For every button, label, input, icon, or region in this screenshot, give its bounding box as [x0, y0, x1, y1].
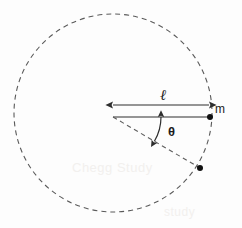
angle-label: θ: [168, 125, 175, 138]
mass-label: m: [215, 103, 225, 115]
angle-arc-arrow: [154, 117, 161, 141]
displaced-radius-line: [113, 117, 200, 168]
length-label: ℓ: [160, 88, 166, 103]
physics-diagram: [0, 0, 242, 228]
mass-point: [207, 114, 213, 120]
figure-canvas: Chegg Study study ℓ m θ: [0, 0, 242, 228]
orbit-circle: [14, 14, 212, 212]
displaced-mass-point: [197, 165, 203, 171]
